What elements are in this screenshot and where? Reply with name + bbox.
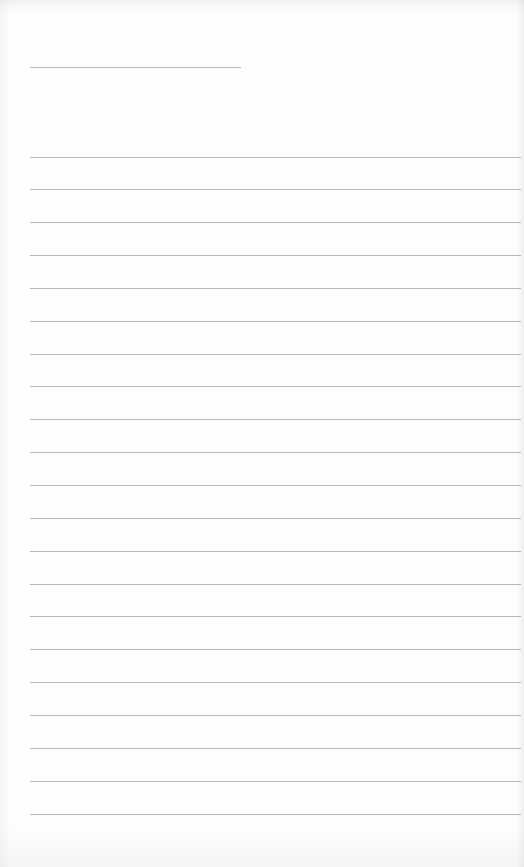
write-line[interactable] <box>30 551 521 552</box>
write-line[interactable] <box>30 354 521 355</box>
write-line[interactable] <box>30 649 521 650</box>
write-line[interactable] <box>30 781 521 782</box>
write-line[interactable] <box>30 715 521 716</box>
write-line[interactable] <box>30 584 521 585</box>
lined-paper-page <box>0 0 524 867</box>
write-line[interactable] <box>30 386 521 387</box>
write-line[interactable] <box>30 682 521 683</box>
write-line[interactable] <box>30 748 521 749</box>
write-line[interactable] <box>30 222 521 223</box>
write-line[interactable] <box>30 321 521 322</box>
write-line[interactable] <box>30 288 521 289</box>
header-write-line[interactable] <box>30 67 241 68</box>
write-line[interactable] <box>30 255 521 256</box>
write-line[interactable] <box>30 452 521 453</box>
write-line[interactable] <box>30 616 521 617</box>
write-line[interactable] <box>30 518 521 519</box>
write-line[interactable] <box>30 157 521 158</box>
write-line[interactable] <box>30 814 521 815</box>
write-line[interactable] <box>30 485 521 486</box>
write-line[interactable] <box>30 189 521 190</box>
write-line[interactable] <box>30 419 521 420</box>
